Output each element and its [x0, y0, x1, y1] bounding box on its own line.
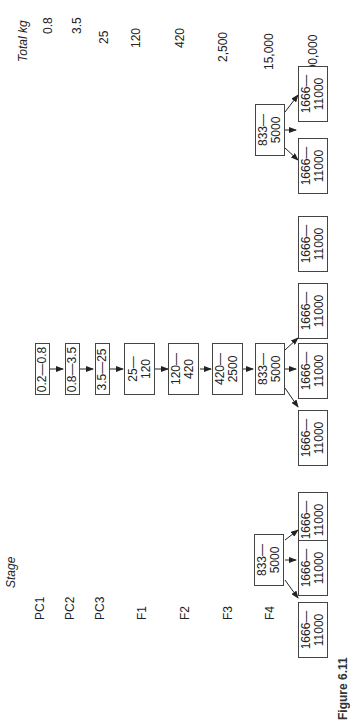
box-f3: 420—2500	[212, 343, 243, 395]
box-f5-3: 1666—11000	[298, 216, 328, 272]
box-pc1: 0.2—0.8	[35, 343, 50, 395]
box-f5-5: 1666—11000	[298, 343, 328, 399]
box-f5-8: 1666—11000	[298, 540, 328, 596]
box-pc3: 3.5—25	[95, 343, 110, 395]
box-pc2: 0.8—3.5	[65, 343, 80, 395]
box-f2: 120—420	[168, 343, 199, 395]
box-f4-bottom: 833—5000	[254, 534, 284, 586]
box-f1: 25—120	[124, 343, 155, 395]
box-f5-2: 1666—11000	[298, 138, 328, 194]
box-f5-1: 1666—11000	[298, 66, 328, 122]
box-f4-center: 833—5000	[255, 343, 285, 395]
box-f5-4: 1666—11000	[298, 283, 328, 339]
figure-caption: Figure 6.11	[336, 657, 350, 720]
box-f5-6: 1666—11000	[298, 410, 328, 466]
box-f4-top: 833—5000	[255, 104, 285, 156]
box-f5-9: 1666—11000	[298, 602, 328, 658]
